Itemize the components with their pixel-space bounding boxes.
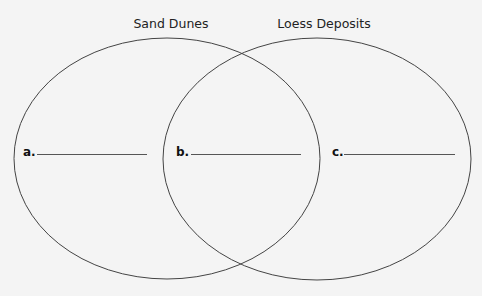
loess-deposits-title: Loess Deposits (277, 16, 370, 31)
region-b-label: b. (176, 145, 189, 159)
region-a-label: a. (23, 145, 36, 159)
sand-dunes-circle (14, 38, 320, 279)
venn-diagram: Sand Dunes Loess Deposits a. b. c. (0, 0, 482, 296)
loess-deposits-circle (163, 38, 471, 280)
sand-dunes-title: Sand Dunes (133, 16, 208, 31)
region-c-label: c. (332, 145, 344, 159)
